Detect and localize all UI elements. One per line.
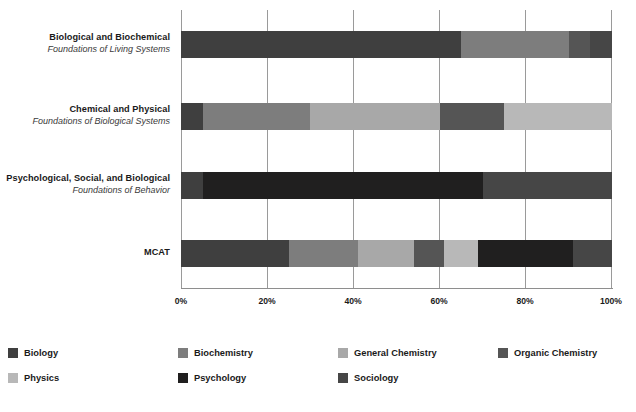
- x-axis-line: [181, 288, 613, 289]
- legend-item: Biochemistry: [178, 348, 253, 358]
- bar-row: [181, 31, 612, 58]
- bar-segment: [569, 31, 591, 58]
- bar-segment: [414, 240, 444, 267]
- legend-swatch-icon: [338, 348, 348, 358]
- bar-segment: [181, 172, 203, 199]
- legend-swatch-icon: [8, 373, 18, 383]
- bar-segment: [289, 240, 358, 267]
- category-title: Chemical and Physical: [0, 104, 170, 115]
- category-title: Biological and Biochemical: [0, 32, 170, 43]
- legend-swatch-icon: [338, 373, 348, 383]
- chart-legend: BiologyBiochemistryGeneral ChemistryOrga…: [8, 348, 628, 398]
- bar-segment: [203, 103, 311, 130]
- x-tick-label: 60%: [430, 296, 447, 306]
- legend-label: General Chemistry: [354, 348, 437, 358]
- legend-item: Psychology: [178, 373, 246, 383]
- bar-segment: [461, 31, 569, 58]
- category-label: Biological and BiochemicalFoundations of…: [0, 32, 170, 54]
- legend-item: Sociology: [338, 373, 398, 383]
- legend-swatch-icon: [8, 348, 18, 358]
- x-tick-label: 80%: [516, 296, 533, 306]
- category-subtitle: Foundations of Biological Systems: [0, 116, 170, 127]
- category-label: Psychological, Social, and BiologicalFou…: [0, 173, 170, 195]
- legend-item: Physics: [8, 373, 59, 383]
- bar-segment: [181, 31, 461, 58]
- bar-segment: [358, 240, 414, 267]
- legend-item: Organic Chemistry: [498, 348, 597, 358]
- bar-segment: [478, 240, 573, 267]
- bar-segment: [181, 240, 289, 267]
- legend-row-2: PhysicsPsychologySociology: [8, 373, 628, 398]
- category-label: MCAT: [0, 247, 170, 258]
- bar-segment: [203, 172, 483, 199]
- x-tick-label: 0%: [175, 296, 187, 306]
- bar-segment: [440, 103, 505, 130]
- legend-label: Biology: [24, 348, 58, 358]
- bar-segment: [590, 31, 612, 58]
- bar-segment: [444, 240, 478, 267]
- legend-row-1: BiologyBiochemistryGeneral ChemistryOrga…: [8, 348, 628, 373]
- stacked-bar-chart: Biological and BiochemicalFoundations of…: [0, 0, 636, 412]
- plot-area: [181, 10, 612, 288]
- legend-item: General Chemistry: [338, 348, 437, 358]
- category-title: MCAT: [0, 247, 170, 258]
- legend-swatch-icon: [178, 373, 188, 383]
- legend-label: Physics: [24, 373, 59, 383]
- bar-segment: [483, 172, 612, 199]
- legend-label: Organic Chemistry: [514, 348, 597, 358]
- legend-label: Psychology: [194, 373, 246, 383]
- bar-segment: [310, 103, 439, 130]
- category-subtitle: Foundations of Behavior: [0, 185, 170, 196]
- category-subtitle: Foundations of Living Systems: [0, 44, 170, 55]
- bar-row: [181, 103, 612, 130]
- x-tick-label: 20%: [258, 296, 275, 306]
- bar-segment: [181, 103, 203, 130]
- bar-segment: [573, 240, 612, 267]
- x-tick-label: 40%: [344, 296, 361, 306]
- bar-row: [181, 240, 612, 267]
- bar-row: [181, 172, 612, 199]
- bar-segment: [504, 103, 612, 130]
- legend-label: Sociology: [354, 373, 398, 383]
- legend-swatch-icon: [498, 348, 508, 358]
- x-tick-label: 100%: [600, 296, 622, 306]
- legend-item: Biology: [8, 348, 58, 358]
- category-title: Psychological, Social, and Biological: [0, 173, 170, 184]
- legend-label: Biochemistry: [194, 348, 253, 358]
- legend-swatch-icon: [178, 348, 188, 358]
- category-label: Chemical and PhysicalFoundations of Biol…: [0, 104, 170, 126]
